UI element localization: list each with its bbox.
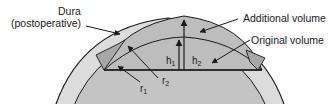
dura-label: Dura	[58, 5, 81, 17]
r2-label: r2	[162, 76, 169, 89]
additional-volume-region	[104, 16, 262, 70]
h1-label: h1	[166, 56, 175, 69]
original-volume-label: Original volume	[251, 34, 324, 46]
dura-callout-arrow	[86, 26, 120, 34]
duraplasty-volume-diagram: Dura (postoperative) Additional volume O…	[0, 0, 336, 110]
r1-label: r1	[140, 84, 147, 97]
h2-label: h2	[192, 56, 201, 69]
dura-label-postoperative: (postoperative)	[11, 17, 81, 29]
additional-volume-label: Additional volume	[243, 12, 326, 24]
